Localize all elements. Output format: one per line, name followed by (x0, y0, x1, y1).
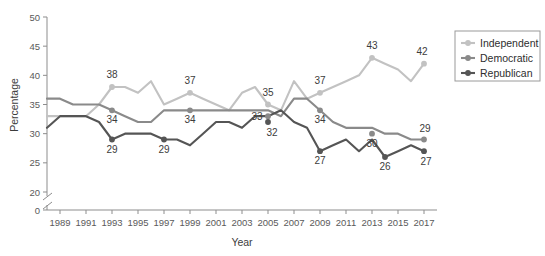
legend-swatch-marker (465, 70, 471, 76)
x-tick-label: 1999 (179, 217, 200, 228)
data-point-label: 27 (314, 155, 326, 166)
y-tick-label: 0 (35, 205, 40, 216)
data-point-label: 29 (419, 123, 431, 134)
data-point-label: 34 (106, 114, 118, 125)
data-point-label: 32 (266, 127, 278, 138)
x-axis-title: Year (231, 236, 253, 248)
x-tick-label: 2015 (387, 217, 408, 228)
series-line-democratic (47, 99, 424, 140)
x-tick-label: 2001 (205, 217, 226, 228)
x-axis: 1989199119931995199719992001200320052007… (47, 210, 437, 228)
data-point-marker (421, 148, 427, 154)
series-line-republican (47, 110, 424, 157)
data-point-marker (317, 90, 323, 96)
y-tick-label: 35 (29, 99, 40, 110)
x-tick-label: 2003 (231, 217, 252, 228)
data-point-label: 37 (184, 75, 196, 86)
y-axis: 504540353025200 (29, 12, 52, 216)
data-point-label: 26 (379, 161, 391, 172)
legend-swatch-marker (465, 55, 471, 61)
data-point-marker (265, 113, 271, 119)
data-point-marker (369, 131, 375, 137)
data-point-marker (161, 137, 167, 143)
data-point-label: 30 (366, 138, 378, 149)
line-chart: 504540353025200 198919911993199519971999… (0, 0, 545, 256)
data-point-marker (421, 137, 427, 143)
y-tick-label: 25 (29, 157, 40, 168)
chart-plot-area: 504540353025200 198919911993199519971999… (0, 0, 545, 256)
data-point-marker (265, 102, 271, 108)
legend-label-independent: Independent (480, 37, 538, 49)
data-point-marker (317, 107, 323, 113)
x-tick-label: 2005 (257, 217, 278, 228)
x-tick-label: 1995 (127, 217, 148, 228)
series-markers (109, 55, 427, 160)
y-axis-title: Percentage (8, 78, 20, 132)
data-point-marker (109, 84, 115, 90)
y-tick-label: 40 (29, 70, 40, 81)
data-point-label: 34 (184, 114, 196, 125)
data-point-marker (187, 90, 193, 96)
x-tick-label: 1993 (101, 217, 122, 228)
data-point-label: 33 (251, 111, 263, 122)
x-tick-label: 1991 (75, 217, 96, 228)
legend-swatch-marker (465, 40, 471, 46)
data-point-label: 34 (314, 114, 326, 125)
data-point-label: 29 (106, 144, 118, 155)
data-point-marker (421, 61, 427, 67)
data-point-marker (382, 154, 388, 160)
data-point-label: 43 (366, 40, 378, 51)
legend-label-democratic: Democratic (480, 52, 533, 64)
data-point-label: 38 (106, 69, 118, 80)
data-point-label: 35 (262, 87, 274, 98)
data-point-marker (265, 119, 271, 125)
x-tick-label: 2013 (361, 217, 382, 228)
y-tick-label: 45 (29, 41, 40, 52)
chart-legend: IndependentDemocraticRepublican (455, 31, 540, 81)
data-point-label: 27 (420, 156, 432, 167)
x-tick-label: 2011 (336, 217, 356, 228)
data-point-label: 29 (158, 144, 170, 155)
x-tick-label: 2007 (283, 217, 304, 228)
data-point-label: 42 (416, 46, 428, 57)
data-point-marker (187, 107, 193, 113)
x-tick-label: 1989 (49, 217, 70, 228)
y-tick-label: 20 (29, 187, 40, 198)
data-point-marker (109, 107, 115, 113)
data-point-marker (109, 137, 115, 143)
data-point-marker (317, 148, 323, 154)
x-tick-label: 2017 (413, 217, 434, 228)
legend-label-republican: Republican (480, 67, 533, 79)
y-tick-label: 50 (29, 12, 40, 23)
x-tick-label: 1997 (153, 217, 174, 228)
y-tick-label: 30 (29, 128, 40, 139)
x-tick-label: 2009 (309, 217, 330, 228)
data-point-marker (369, 55, 375, 61)
data-point-label: 37 (314, 75, 326, 86)
